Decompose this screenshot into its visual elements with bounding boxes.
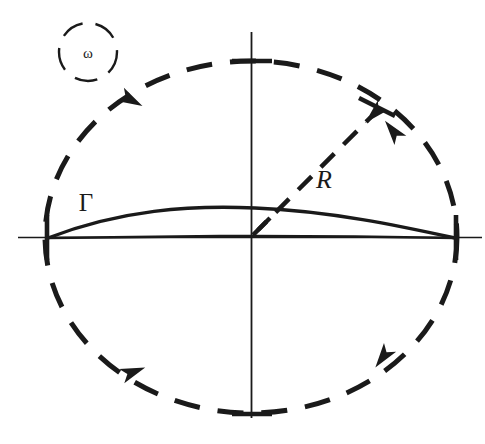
diagram-canvas: ω R Γ: [0, 0, 485, 444]
radius-label: R: [315, 165, 332, 194]
contour-label: Γ: [79, 189, 93, 216]
radius-inner-stub: [258, 218, 270, 230]
orbit-arrow-upper-left: [117, 88, 146, 113]
omega-label: ω: [83, 45, 93, 61]
orbit-arrow-lower-left: [119, 361, 148, 384]
figure-root: ω R Γ: [0, 0, 485, 444]
spin-indicator-group: ω: [59, 23, 117, 81]
